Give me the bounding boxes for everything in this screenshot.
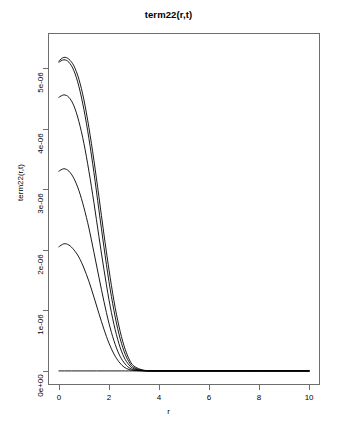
x-tick-mark xyxy=(59,385,60,390)
data-curve xyxy=(59,95,309,371)
plot-figure: term22(r,t) term22(r,t) 0e+001e-062e-063… xyxy=(0,0,337,433)
x-axis-label: r xyxy=(0,407,337,416)
curve-group xyxy=(48,33,320,385)
x-tick-label: 2 xyxy=(94,393,124,402)
y-axis-label: term22(r,t) xyxy=(16,133,25,233)
x-tick-label: 0 xyxy=(44,393,74,402)
x-tick-label: 6 xyxy=(194,393,224,402)
y-tick-label: 4e-06 xyxy=(36,127,45,159)
y-tick-label: 5e-06 xyxy=(36,67,45,99)
data-curve xyxy=(59,60,309,371)
x-tick-label: 10 xyxy=(294,393,324,402)
x-tick-mark xyxy=(109,385,110,390)
x-tick-label: 8 xyxy=(244,393,274,402)
plot-title: term22(r,t) xyxy=(0,9,337,20)
y-tick-label: 2e-06 xyxy=(36,248,45,280)
data-curve xyxy=(59,169,309,371)
x-tick-mark xyxy=(309,385,310,390)
y-tick-label: 3e-06 xyxy=(36,188,45,220)
x-tick-mark xyxy=(259,385,260,390)
x-tick-mark xyxy=(209,385,210,390)
y-tick-label: 1e-06 xyxy=(36,309,45,341)
plot-canvas xyxy=(48,33,320,385)
x-tick-mark xyxy=(159,385,160,390)
x-tick-label: 4 xyxy=(144,393,174,402)
data-curve xyxy=(59,57,309,371)
